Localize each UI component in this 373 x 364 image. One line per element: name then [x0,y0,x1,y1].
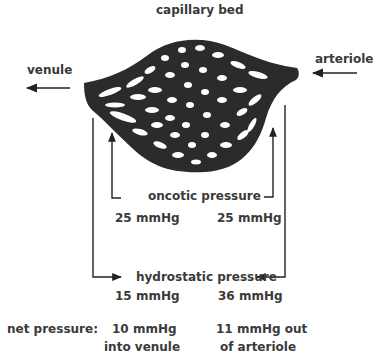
capillary-bed-shape [84,40,299,173]
arteriole-label: arteriole [315,52,373,66]
hydrostatic-venule-value: 15 mmHg [115,289,180,303]
net-arteriole-line2: of arteriole [216,340,300,354]
net-pressure-label: net pressure: [7,322,98,336]
net-venule-line1: 10 mmHg [112,322,172,336]
oncotic-left-arrow [112,133,121,198]
oncotic-arteriole-value: 25 mmHg [217,211,282,225]
hydrostatic-label: hydrostatic pressure [136,270,277,284]
net-venule-line2: into venule [104,340,180,354]
venule-label: venule [27,63,72,77]
oncotic-venule-value: 25 mmHg [115,211,180,225]
oncotic-label: oncotic pressure [148,189,261,203]
diagram-title: capillary bed [156,3,243,17]
hydrostatic-arteriole-value: 36 mmHg [218,289,283,303]
net-arteriole-line1: 11 mmHg out [216,322,300,336]
oncotic-right-arrow [264,128,273,197]
